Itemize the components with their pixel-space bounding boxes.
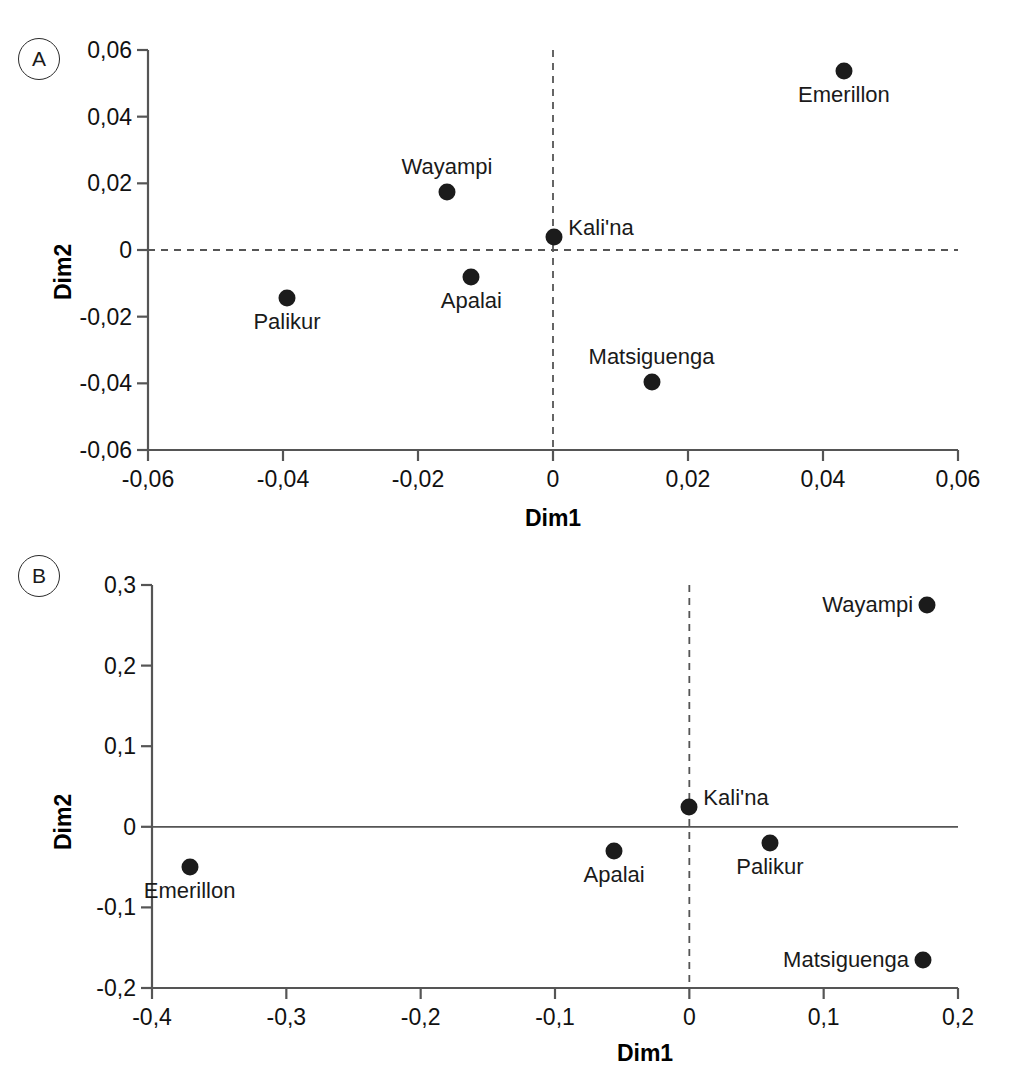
scatter-plot-a: -0,06-0,04-0,0200,020,040,06-0,06-0,04-0… [0,0,1012,530]
axes-a [0,0,1012,530]
data-point [643,373,660,390]
data-point-label: Matsiguenga [783,947,909,973]
x-tick-label-a: 0,04 [801,466,846,493]
x-tick-label-b: 0,2 [942,1004,974,1031]
data-point [835,63,852,80]
data-point-label: Apalai [584,862,645,888]
data-point [761,834,778,851]
data-point [463,268,480,285]
y-tick-label-b: -0,2 [96,975,136,1002]
data-point-label: Wayampi [822,592,913,618]
data-point-label: Apalai [441,288,502,314]
data-point-label: Kali'na [568,215,633,241]
x-tick-label-a: 0,02 [666,466,711,493]
y-tick-label-b: -0,1 [96,894,136,921]
y-tick-label-a: 0,02 [87,170,132,197]
panel-b: B -0,2-0,100,10,20,3-0,4-0,3-0,2-0,100,1… [0,530,1012,1091]
panel-b-y-axis-title: Dim2 [50,794,77,850]
data-point [439,183,456,200]
y-tick-label-b: 0,1 [104,733,136,760]
x-tick-label-a: 0,06 [936,466,981,493]
y-tick-label-a: 0,06 [87,37,132,64]
panel-b-x-axis-title: Dim1 [617,1040,673,1067]
data-point [919,597,936,614]
panel-a-x-axis-title: Dim1 [525,505,581,532]
x-tick-label-b: 0 [683,1004,696,1031]
data-point [181,859,198,876]
data-point-label: Matsiguenga [589,344,715,370]
x-tick-label-a: -0,02 [392,466,444,493]
data-point-label: Kali'na [703,785,768,811]
data-point-label: Wayampi [402,154,493,180]
x-tick-label-b: -0,4 [132,1004,172,1031]
data-point [279,289,296,306]
y-tick-label-b: 0 [123,813,136,840]
x-tick-label-b: -0,2 [401,1004,441,1031]
x-tick-label-b: -0,1 [535,1004,575,1031]
data-point-label: Emerillon [798,82,890,108]
y-tick-label-a: 0 [119,237,132,264]
data-point-label: Palikur [253,309,320,335]
panel-a: A -0,06-0,04-0,0200,020,040,06-0,06-0,04… [0,0,1012,530]
y-tick-label-b: 0,3 [104,572,136,599]
y-tick-label-a: -0,04 [80,370,132,397]
data-point [546,228,563,245]
y-tick-label-b: 0,2 [104,652,136,679]
panel-a-y-axis-title: Dim2 [50,244,77,300]
data-point [681,798,698,815]
data-point [606,842,623,859]
y-tick-label-a: -0,02 [80,303,132,330]
y-tick-label-a: 0,04 [87,103,132,130]
data-point [915,951,932,968]
data-point-label: Emerillon [144,878,236,904]
x-tick-label-b: 0,1 [808,1004,840,1031]
scatter-plot-b: -0,2-0,100,10,20,3-0,4-0,3-0,2-0,100,10,… [0,530,1012,1091]
data-point-label: Palikur [736,854,803,880]
x-tick-label-a: 0 [547,466,560,493]
x-tick-label-b: -0,3 [267,1004,307,1031]
y-tick-label-a: -0,06 [80,437,132,464]
x-tick-label-a: -0,06 [122,466,174,493]
x-tick-label-a: -0,04 [257,466,309,493]
